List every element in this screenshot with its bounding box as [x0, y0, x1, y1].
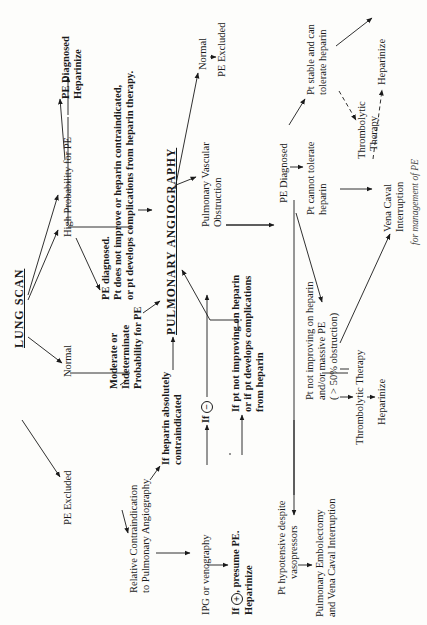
- node-text-line: from heparin: [254, 275, 266, 412]
- node-pe-diagnosed: PE Diagnosed: [278, 143, 290, 203]
- node-text-line: or if pt develops complications: [242, 275, 254, 412]
- node-pt-stable: Pt stable and can tolerate heparin: [305, 24, 329, 95]
- node-text-line: Therapy: [368, 101, 380, 159]
- node-text-line: Pt hypotensive despite: [276, 501, 288, 596]
- node-text-line: If: [200, 415, 211, 423]
- negative-sign-icon: −: [201, 401, 213, 413]
- node-moderate-probability: Moderate or Indeterminate Probability fo…: [108, 307, 144, 389]
- node-relative-contraindication: Relative Contraindication to Pulmonary A…: [128, 479, 152, 593]
- node-text-line: or pt develops complications from hepari…: [124, 71, 136, 300]
- pulmonary-angiography-title: PULMONARY ANGIOGRAPHY: [165, 148, 177, 335]
- node-pe-diagnosed-heparinize: PE Diagnosed Heparinize: [60, 36, 84, 99]
- node-text-line: Obstruction: [212, 142, 224, 227]
- node-pulmonary-vascular-obstruction: Pulmonary Vascular Obstruction: [200, 142, 224, 227]
- node-text-line: ( > 50% obstruction): [328, 282, 340, 400]
- node-text-line: , presume PE.: [230, 531, 241, 593]
- node-text-line: Interruption: [394, 182, 406, 232]
- node-text-line: and Vena Caval Interruption: [326, 499, 338, 617]
- node-text-line: vasopressors: [288, 501, 300, 596]
- figure-caption: for management of PE: [410, 159, 420, 245]
- node-text-line: PE Diagnosed: [60, 36, 72, 99]
- node-pe-excluded-1: PE Excluded: [62, 470, 74, 525]
- node-text-line: Heparinize: [72, 36, 84, 99]
- node-not-improving-on-heparin: If pt not improving on heparin or if pt …: [230, 275, 266, 412]
- node-pt-cannot-tolerate: Pt cannot tolerate heparin: [305, 142, 329, 215]
- node-pe-diagnosed-not-improve: PE diagnosed. Pt does not improve or hep…: [100, 71, 136, 300]
- node-text-line: Pt does not improve or heparin contraind…: [112, 71, 124, 300]
- node-text-line: Heparinize: [243, 531, 255, 615]
- node-if-negative: If −: [200, 401, 213, 423]
- node-text-line: and/or massive PE: [316, 282, 328, 400]
- lung-scan-title: LUNG SCAN: [12, 269, 27, 348]
- node-heparin-absolutely-contraindicated: If heparin absolutely contraindicated: [160, 372, 184, 465]
- node-text-line: Pt stable and can: [305, 24, 317, 95]
- node-text-line: Pulmonary Embolectomy: [314, 499, 326, 617]
- node-vena-caval-interruption: Vena Caval Interruption: [382, 182, 406, 232]
- node-text-line: to Pulmonary Angiography: [140, 479, 152, 593]
- node-thrombolytic-therapy-2: Thrombolytic Therapy: [354, 350, 366, 445]
- node-ipg-venography: IPG or venography: [200, 535, 212, 615]
- node-text-line: Probability for PE: [132, 307, 144, 389]
- node-heparinize-2: Heparinize: [376, 39, 388, 85]
- node-text-line: If: [230, 607, 241, 615]
- positive-sign-icon: +: [231, 593, 243, 605]
- node-text-line: Relative Contraindication: [128, 479, 140, 593]
- node-text-line: Thrombolytic: [356, 101, 368, 159]
- node-text-line: Pt cannot tolerate: [305, 142, 317, 215]
- node-pt-not-improving: Pt not improving on heparin and/or massi…: [304, 282, 340, 400]
- node-normal-angiography: Normal: [197, 38, 209, 70]
- node-text-line: Indeterminate: [120, 307, 132, 389]
- node-text-line: If heparin absolutely: [160, 372, 172, 465]
- node-text-line: Pulmonary Vascular: [200, 142, 212, 227]
- node-high-probability: High Probability for PE: [62, 137, 74, 237]
- flowchart-page: LUNG SCAN Normal PE Excluded Moderate or…: [0, 0, 427, 625]
- node-text-line: heparin: [317, 142, 329, 215]
- node-normal-scan: Normal: [62, 345, 74, 377]
- node-embolectomy: Pulmonary Embolectomy and Vena Caval Int…: [314, 499, 338, 617]
- node-thrombolytic-therapy-1: Thrombolytic Therapy: [356, 101, 380, 159]
- node-if-positive: If +, presume PE. Heparinize: [230, 531, 255, 615]
- node-heparinize-3: Heparinize: [376, 379, 388, 425]
- node-text-line: contraindicated: [172, 372, 184, 465]
- node-text-line: PE diagnosed.: [100, 71, 112, 300]
- node-text-line: Pt not improving on heparin: [304, 282, 316, 400]
- node-pe-excluded-2: PE Excluded: [216, 22, 228, 77]
- node-text-line: Vena Caval: [382, 182, 394, 232]
- node-pt-hypotensive: Pt hypotensive despite vasopressors: [276, 501, 300, 596]
- node-text-line: tolerate heparin: [317, 24, 329, 95]
- node-text-line: If pt not improving on heparin: [230, 275, 242, 412]
- node-text-line: Moderate or: [108, 307, 120, 389]
